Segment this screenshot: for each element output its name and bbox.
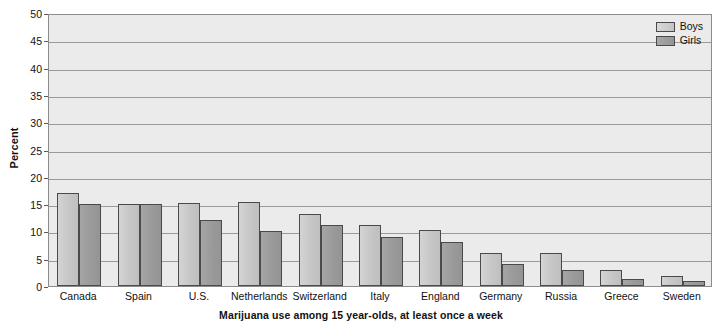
bar-canada-boys (57, 193, 79, 286)
y-tick-label: 50 (18, 9, 42, 20)
x-tick-label: Sweden (632, 290, 722, 302)
bar-germany-girls (502, 264, 524, 286)
chart-caption: Marijuana use among 15 year-olds, at lea… (0, 309, 722, 321)
y-tick-label: 45 (18, 36, 42, 47)
bar-sweden-boys (661, 276, 683, 286)
y-tick-mark (44, 287, 48, 288)
y-tick-label: 25 (18, 146, 42, 157)
y-tick-label: 30 (18, 118, 42, 129)
legend-label-boys: Boys (680, 21, 703, 32)
bars-layer (49, 15, 711, 286)
legend-swatch-girls (656, 36, 675, 46)
y-tick-label: 10 (18, 227, 42, 238)
bar-switzerland-boys (299, 214, 321, 286)
plot-area: Boys Girls (48, 14, 712, 287)
bar-greece-boys (600, 270, 622, 286)
bar-greece-girls (622, 279, 644, 286)
bar-sweden-girls (683, 281, 705, 286)
legend-item-boys: Boys (656, 21, 703, 32)
y-tick-label: 15 (18, 200, 42, 211)
y-tick-label: 5 (18, 255, 42, 266)
bar-germany-boys (480, 253, 502, 286)
bar-italy-girls (381, 237, 403, 286)
bar-spain-boys (118, 204, 140, 286)
bar-russia-boys (540, 253, 562, 286)
legend-label-girls: Girls (680, 35, 702, 46)
legend-swatch-boys (656, 22, 675, 32)
y-tick-label: 20 (18, 173, 42, 184)
bar-spain-girls (140, 204, 162, 286)
bar-us-boys (178, 203, 200, 286)
legend: Boys Girls (656, 21, 703, 46)
bar-canada-girls (79, 204, 101, 286)
bar-us-girls (200, 220, 222, 286)
bar-italy-boys (359, 225, 381, 286)
bar-england-girls (441, 242, 463, 286)
y-tick-label: 35 (18, 91, 42, 102)
bar-chart: Percent 05101520253035404550 Boys Girls … (0, 0, 722, 332)
legend-item-girls: Girls (656, 35, 703, 46)
bar-russia-girls (562, 270, 584, 286)
bar-netherlands-girls (260, 231, 282, 286)
bar-england-boys (419, 230, 441, 286)
bar-netherlands-boys (238, 202, 260, 286)
bar-switzerland-girls (321, 225, 343, 286)
y-tick-label: 40 (18, 64, 42, 75)
